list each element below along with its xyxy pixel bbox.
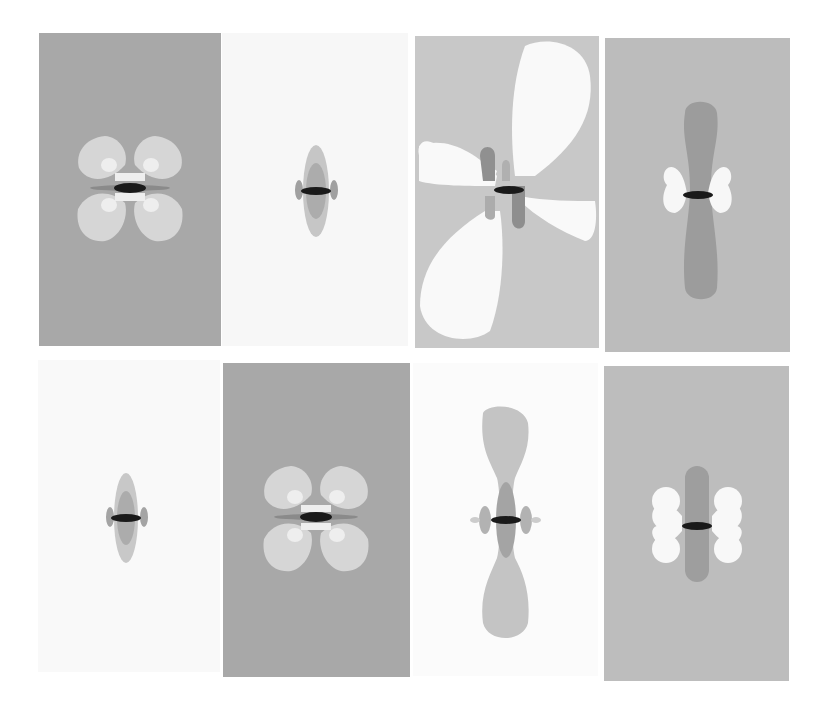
contour-plot — [415, 36, 599, 348]
contour-plot — [223, 363, 410, 677]
contour-plot — [604, 366, 789, 681]
panel-6-four-lobe-x — [223, 363, 410, 677]
panel-4-vertical-dumbbell-white-lobes — [605, 38, 790, 352]
contour-plot — [413, 363, 598, 676]
panel-8-vertical-bar-white-lobes — [604, 366, 789, 681]
contour-plot — [222, 33, 408, 346]
panel-3-tilted-quadrupole — [415, 36, 599, 348]
core — [114, 183, 146, 193]
contour-plot — [39, 33, 221, 346]
contour-plot — [38, 360, 220, 672]
panel-1-four-lobe-x — [39, 33, 221, 346]
contour-plot — [605, 38, 790, 352]
panel-7-vertical-dumbbell — [413, 363, 598, 676]
panel-2-small-ellipse — [222, 33, 408, 346]
panel-5-small-ellipse — [38, 360, 220, 672]
